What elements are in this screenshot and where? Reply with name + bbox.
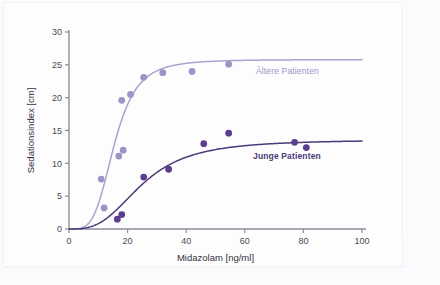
data-point-aeltere-patienten[interactable] <box>159 69 166 76</box>
data-point-aeltere-patienten[interactable] <box>115 153 122 160</box>
fit-curve-aeltere-patienten <box>69 60 362 229</box>
data-point-junge-patienten[interactable] <box>118 211 125 218</box>
x-tick-label: 0 <box>66 236 71 246</box>
data-point-junge-patienten[interactable] <box>291 139 298 146</box>
data-point-junge-patienten[interactable] <box>200 140 207 147</box>
x-tick-label: 60 <box>240 236 250 246</box>
x-axis-label: Midazolam [ng/ml] <box>177 252 254 263</box>
x-tick-label: 100 <box>354 236 369 246</box>
y-tick-label: 30 <box>52 27 62 37</box>
data-point-aeltere-patienten[interactable] <box>189 68 196 75</box>
y-tick-label: 5 <box>57 191 62 201</box>
x-tick-label: 40 <box>181 236 191 246</box>
data-point-junge-patienten[interactable] <box>225 130 232 137</box>
x-tick-label: 80 <box>298 236 308 246</box>
data-point-aeltere-patienten[interactable] <box>120 147 127 154</box>
data-point-aeltere-patienten[interactable] <box>140 74 147 81</box>
y-axis-label: Sedationsindex [cm] <box>25 88 36 174</box>
data-point-junge-patienten[interactable] <box>165 166 172 173</box>
data-point-aeltere-patienten[interactable] <box>127 91 134 98</box>
series-annotation-junge-patienten: Junge Patienten <box>253 151 321 161</box>
series-annotation-aeltere-patienten: Ältere Patienten <box>256 66 319 76</box>
sedation-index-chart: 051015202530020406080100Midazolam [ng/ml… <box>0 0 440 285</box>
x-tick-label: 20 <box>123 236 133 246</box>
data-point-aeltere-patienten[interactable] <box>98 176 105 183</box>
data-point-aeltere-patienten[interactable] <box>101 205 108 212</box>
y-tick-label: 10 <box>52 159 62 169</box>
data-point-aeltere-patienten[interactable] <box>225 61 232 68</box>
data-point-junge-patienten[interactable] <box>140 174 147 181</box>
data-point-aeltere-patienten[interactable] <box>118 97 125 104</box>
y-tick-label: 0 <box>57 224 62 234</box>
y-tick-label: 20 <box>52 93 62 103</box>
y-tick-label: 25 <box>52 60 62 70</box>
y-tick-label: 15 <box>52 126 62 136</box>
data-point-junge-patienten[interactable] <box>303 144 310 151</box>
figure-container: 051015202530020406080100Midazolam [ng/ml… <box>0 0 440 285</box>
